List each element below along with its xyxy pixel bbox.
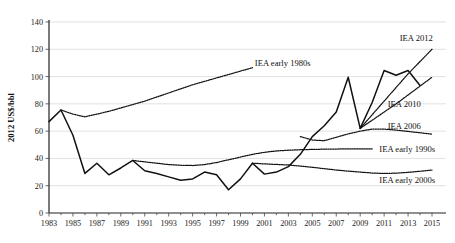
x-tick-label: 1995 <box>184 219 200 228</box>
x-tick-label: 1989 <box>113 219 129 228</box>
y-tick-label: 60 <box>35 127 43 136</box>
x-tick-label: 2015 <box>424 219 440 228</box>
x-tick-label: 2013 <box>400 219 416 228</box>
x-tick-label: 1991 <box>137 219 153 228</box>
y-tick-label: 0 <box>39 209 43 218</box>
series-label-5: IEA 2010 <box>388 99 421 109</box>
y-axis-title-text: 2012 US$/bbl <box>6 92 16 142</box>
x-tick-label: 1997 <box>208 219 224 228</box>
chart-canvas: 020406080100120140 198319851987198919911… <box>0 0 455 243</box>
y-tick-label: 140 <box>31 18 43 27</box>
x-tick-label: 2011 <box>376 219 392 228</box>
y-tick-label: 120 <box>31 45 43 54</box>
x-tick-label: 1993 <box>161 219 177 228</box>
x-tick-label: 1987 <box>89 219 105 228</box>
series-label-6: IEA 2012 <box>400 33 433 43</box>
x-tick-label: 1985 <box>65 219 81 228</box>
series-label-4: IEA 2006 <box>388 121 422 131</box>
y-axis-title: 2012 US$/bbl <box>6 92 16 142</box>
series-label-3: IEA early 2000s <box>379 175 436 185</box>
x-tick-label: 2005 <box>304 219 320 228</box>
series-label-2: IEA early 1990s <box>379 144 436 154</box>
y-tick-label: 20 <box>35 182 43 191</box>
y-tick-label: 80 <box>35 100 43 109</box>
y-tick-label: 100 <box>31 73 43 82</box>
x-tick-label: 2007 <box>328 219 344 228</box>
series-label-1: IEA early 1980s <box>255 58 312 68</box>
x-tick-label: 2001 <box>256 219 272 228</box>
x-tick-label: 2009 <box>352 219 368 228</box>
oil-price-forecast-chart: 020406080100120140 198319851987198919911… <box>0 0 455 243</box>
x-tick-label: 1999 <box>232 219 248 228</box>
x-tick-label: 1983 <box>41 219 57 228</box>
y-tick-label: 40 <box>35 154 43 163</box>
x-tick-label: 2003 <box>280 219 296 228</box>
